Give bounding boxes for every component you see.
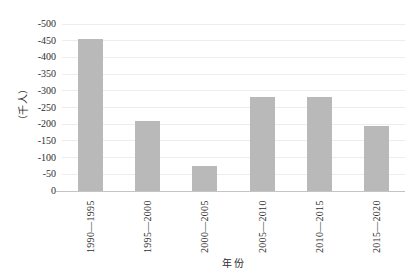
gridline — [62, 40, 405, 41]
y-tick-label: -400 — [0, 51, 56, 63]
y-tick-label: -450 — [0, 35, 56, 47]
y-tick-label: -50 — [0, 168, 56, 180]
x-tick-label: 2005—2010 — [257, 200, 268, 253]
y-tick-label: -100 — [0, 152, 56, 164]
y-tick-label: -250 — [0, 102, 56, 114]
bar — [364, 126, 389, 191]
x-tick-label: 1995—2000 — [142, 200, 153, 253]
y-tick-label: -200 — [0, 118, 56, 130]
x-tick-label: 2015—2020 — [371, 200, 382, 253]
gridline — [62, 107, 405, 108]
gridline — [62, 90, 405, 91]
y-tick-label: -500 — [0, 18, 56, 30]
bar — [307, 97, 332, 191]
x-tick-label: 2000—2005 — [199, 200, 210, 253]
bar — [78, 39, 103, 191]
gridline — [62, 57, 405, 58]
bar — [250, 97, 275, 191]
gridline — [62, 74, 405, 75]
gridline — [62, 174, 405, 175]
gridline — [62, 140, 405, 141]
x-axis-line — [56, 191, 405, 192]
x-tick-label: 2010—2015 — [314, 200, 325, 253]
gridline — [62, 124, 405, 125]
x-tick-label: 1990—1995 — [85, 200, 96, 253]
y-tick-label: -300 — [0, 85, 56, 97]
bar-chart-figure: （千人） 年份 -500-450-400-350-300-250-200-150… — [0, 0, 413, 280]
x-axis-title: 年份 — [222, 255, 246, 270]
bar — [192, 166, 217, 191]
bar — [135, 121, 160, 191]
plot-area — [62, 24, 405, 191]
y-tick-label: 0 — [0, 185, 56, 197]
gridline — [62, 24, 405, 25]
gridline — [62, 157, 405, 158]
y-tick-label: -350 — [0, 68, 56, 80]
y-tick-label: -150 — [0, 135, 56, 147]
